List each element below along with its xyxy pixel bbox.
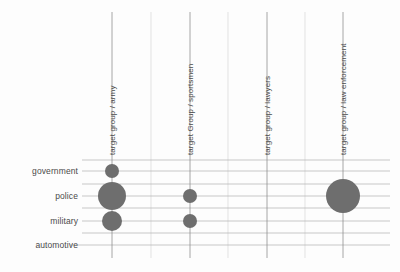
x-axis-tick-label: target group / law enforcement (339, 43, 348, 155)
y-axis-tick-label: police (0, 191, 78, 201)
data-bubble (102, 211, 122, 231)
y-axis-tick-label: military (0, 216, 78, 226)
data-bubble (326, 179, 360, 213)
data-bubble (98, 182, 126, 210)
y-axis-tick-label: automotive (0, 240, 78, 250)
x-axis-tick-label: target group / lawyers (263, 76, 272, 155)
y-axis-tick-label: government (0, 166, 78, 176)
data-bubble (105, 164, 119, 178)
x-axis-tick-label: target Group / sportsmen (186, 64, 195, 155)
bubble-chart: governmentpolicemilitaryautomotive targe… (0, 0, 400, 272)
x-axis-tick-label: target group / army (108, 86, 117, 156)
data-bubble (183, 214, 197, 228)
data-bubble (183, 189, 197, 203)
